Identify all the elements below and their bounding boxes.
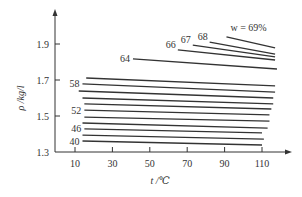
x-axis-label: t /℃ [150,175,169,186]
x-tick-label: 50 [145,158,155,169]
x-ticks: 1030507090110 [70,147,269,169]
series-label-w52: 52 [71,105,81,116]
series-line-w57 [79,91,273,98]
y-tick-label: 1.3 [37,147,50,158]
series-label-w64: 64 [120,53,130,64]
x-tick-label: 10 [70,158,80,169]
y-tick-label: 1.7 [37,75,50,86]
series-line-w40 [82,141,262,145]
series-lines: 4046525864666768w = 69% [69,22,276,147]
x-tick-label: 110 [255,158,270,169]
series-line-w56 [82,98,273,104]
y-ticks: 1.31.51.71.9 [37,39,61,158]
y-axis-label: ρ /kg/l [15,85,26,111]
series-line-w52 [84,110,269,115]
x-tick-label: 30 [107,158,117,169]
series-label-w68: 68 [198,31,208,42]
density-chart: 1.31.51.71.9 1030507090110 4046525864666… [0,0,302,197]
x-tick-label: 90 [220,158,230,169]
y-tick-label: 1.5 [37,111,50,122]
x-tick-label: 70 [182,158,192,169]
series-line-w46 [84,129,262,133]
series-label-w66: 66 [166,39,176,50]
series-line-w50 [84,117,269,121]
series-label-w69: w = 69% [230,22,266,33]
y-tick-label: 1.9 [37,39,50,50]
series-label-w46: 46 [71,123,81,134]
series-line-w43 [82,135,263,139]
y-axis-arrow-icon [53,9,58,16]
series-line-w54 [84,104,271,109]
series-line-w64 [133,59,277,69]
series-line-w49 [82,123,267,128]
series-label-w40: 40 [69,136,79,147]
series-label-w58: 58 [69,78,79,89]
series-label-w67: 67 [181,34,191,45]
x-axis-arrow-icon [285,150,292,155]
